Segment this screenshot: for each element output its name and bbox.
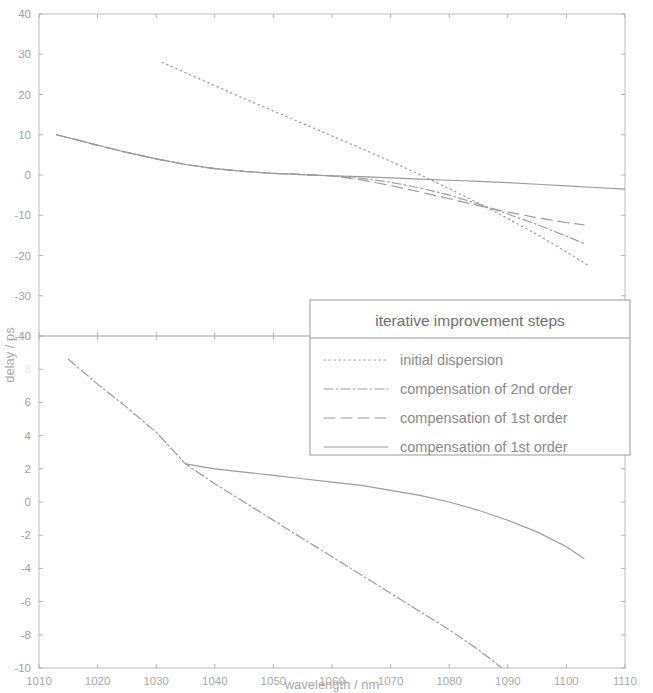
x-axis-tick-label: 1090 xyxy=(495,675,521,687)
legend-label-1: compensation of 2nd order xyxy=(400,381,573,397)
y-axis-tick-label-upper: -20 xyxy=(14,250,31,262)
x-axis-tick-label: 1050 xyxy=(261,675,287,687)
y-axis-tick-label-lower: -2 xyxy=(21,529,31,541)
y-axis-tick-label-lower: -6 xyxy=(21,596,31,608)
y-axis-tick-label-upper: -30 xyxy=(14,290,31,302)
y-axis-tick-label-lower: 2 xyxy=(25,463,31,475)
x-axis-title: wavelength / nm xyxy=(284,677,380,692)
y-axis-tick-label-lower: 0 xyxy=(25,496,31,508)
x-axis-tick-label: 1040 xyxy=(202,675,228,687)
upper-curve-solid xyxy=(57,135,625,189)
y-axis-title: delay / ps xyxy=(2,327,17,383)
upper-curve-dashed xyxy=(57,135,584,225)
x-axis-tick-label: 1020 xyxy=(85,675,111,687)
legend-label-3: compensation of 1st order xyxy=(400,439,568,455)
legend-title: iterative improvement steps xyxy=(375,312,565,329)
y-axis-tick-label-lower: 6 xyxy=(25,396,31,408)
plot-canvas: 403020100-10-20-30-401086420-2-4-6-8-101… xyxy=(0,0,653,693)
y-axis-tick-label-lower: 4 xyxy=(25,430,32,442)
y-axis-tick-label-lower: -4 xyxy=(21,562,32,574)
y-axis-tick-label-upper: 20 xyxy=(18,89,31,101)
y-axis-tick-label-upper: 40 xyxy=(18,8,31,20)
y-axis-tick-label-lower: 8 xyxy=(25,363,31,375)
lower-curve-solid xyxy=(186,464,584,559)
upper-curve-dashdot xyxy=(57,135,584,244)
x-axis-tick-label: 1070 xyxy=(378,675,404,687)
legend-label-2: compensation of 1st order xyxy=(400,410,568,426)
y-axis-tick-label-lower: 10 xyxy=(18,330,31,342)
y-axis-tick-label-lower: -10 xyxy=(14,662,31,674)
x-axis-tick-label: 1080 xyxy=(436,675,462,687)
y-axis-tick-label-upper: 30 xyxy=(18,48,31,60)
legend-label-0: initial dispersion xyxy=(400,352,503,368)
upper-panel-frame xyxy=(39,14,625,336)
y-axis-tick-label-lower: -8 xyxy=(21,629,31,641)
y-axis-tick-label-upper: 10 xyxy=(18,129,31,141)
upper-curve-dotted xyxy=(162,62,590,266)
x-axis-tick-label: 1010 xyxy=(26,675,52,687)
upper-panel-curves xyxy=(57,62,625,266)
x-axis-tick-label: 1100 xyxy=(554,675,579,687)
x-axis-tick-label: 1110 xyxy=(613,675,637,687)
y-axis-tick-label-upper: 0 xyxy=(25,169,31,181)
dispersion-compensation-figure: 403020100-10-20-30-401086420-2-4-6-8-101… xyxy=(0,0,653,693)
y-axis-tick-label-upper: -10 xyxy=(14,209,31,221)
x-axis-tick-label: 1030 xyxy=(143,675,169,687)
